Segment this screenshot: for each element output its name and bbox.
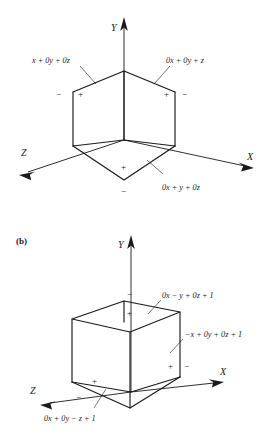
sign-right-inner: + <box>168 361 173 371</box>
z-axis-label: Z <box>30 385 36 396</box>
x-axis-arrowhead <box>239 163 254 172</box>
sign-top-inner: + <box>127 308 132 318</box>
bottom-plane-leader <box>147 160 163 174</box>
sign-right-inner: + <box>164 89 169 99</box>
sign-right-outer: − <box>184 361 189 371</box>
cube-top-face <box>72 301 180 332</box>
sign-left-inner: + <box>78 89 83 99</box>
cube-origin-to-left-edge <box>72 382 131 392</box>
figure-a: Y X Z x + 0y + 0z 0x + 0y + z 0x + y + 0… <box>0 0 273 222</box>
sign-front-inner: + <box>92 376 97 386</box>
left-plane-label: x + 0y + 0z <box>31 56 71 65</box>
front-plane-label: 0x + 0y − z + 1 <box>44 414 96 423</box>
x-axis-label: X <box>246 151 254 162</box>
figure-b: (b) Y X Z 0x − y + 0z + 1 <box>0 222 273 444</box>
z-axis-line <box>50 392 131 403</box>
sign-top-outer: − <box>127 289 132 299</box>
right-plane-label: −x + 0y + 0z + 1 <box>185 330 242 339</box>
sign-bottom-inner: + <box>121 162 126 172</box>
left-plane-leader <box>80 66 96 84</box>
sign-front-outer: − <box>76 392 81 402</box>
z-axis-label: Z <box>21 147 27 158</box>
right-plane-leader <box>154 66 170 84</box>
figure-b-canvas: (b) Y X Z 0x − y + 0z + 1 <box>0 222 273 444</box>
right-plane-leader <box>170 339 183 353</box>
y-axis-label: Y <box>111 22 118 33</box>
x-axis-line <box>131 383 214 392</box>
z-axis-arrowhead <box>40 401 56 409</box>
x-axis-line <box>124 140 245 166</box>
x-axis-label: X <box>219 366 227 377</box>
sign-bottom-outer: − <box>121 186 126 196</box>
top-plane-label: 0x − y + 0z + 1 <box>162 291 214 300</box>
front-plane-leader <box>94 389 106 408</box>
sign-left-outer: − <box>56 89 61 99</box>
bottom-plane-label: 0x + y + 0z <box>162 183 201 192</box>
sign-right-outer: − <box>182 89 187 99</box>
z-axis-arrowhead <box>19 172 35 181</box>
figure-a-canvas: Y X Z x + 0y + 0z 0x + 0y + z 0x + y + 0… <box>0 0 273 222</box>
panel-tag-b: (b) <box>16 236 27 246</box>
z-axis-line <box>28 140 124 172</box>
top-plane-leader <box>148 300 161 314</box>
right-plane-label: 0x + 0y + z <box>166 56 205 65</box>
y-axis-label: Y <box>118 239 125 250</box>
